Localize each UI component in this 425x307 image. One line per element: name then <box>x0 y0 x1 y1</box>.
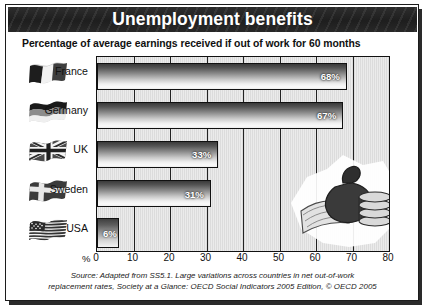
category-row-germany: Germany <box>14 95 96 134</box>
source-note-line2: replacement rates, Society at a Glance: … <box>16 281 409 292</box>
plot-area: 68% 67% 33% 31% 6% <box>96 56 390 252</box>
bar-sweden[interactable]: 31% <box>97 180 211 207</box>
category-row-uk: UK <box>14 134 96 173</box>
bar-uk[interactable]: 33% <box>97 141 218 168</box>
bar-value-label: 6% <box>103 227 117 238</box>
infographic-page: Unemployment benefits Percentage of aver… <box>0 0 425 307</box>
bar-value-label: 33% <box>192 149 211 160</box>
category-label: USA <box>66 222 88 234</box>
gridline-70 <box>353 57 354 251</box>
category-row-sweden: Sweden <box>14 174 96 213</box>
category-label: Germany <box>44 104 88 116</box>
category-label: UK <box>73 143 88 155</box>
category-label: France <box>55 65 88 77</box>
flag-usa-icon <box>28 217 69 244</box>
source-note-line1: Source: Adapted from SS5.1. Large variat… <box>16 270 409 281</box>
bar-value-label: 67% <box>317 110 336 121</box>
axis-tick-80: 80 <box>382 252 393 263</box>
axis-tick-20: 20 <box>163 252 174 263</box>
category-label: Sweden <box>50 183 88 195</box>
chart-subtitle: Percentage of average earnings received … <box>22 38 360 49</box>
axis-tick-0: 0 <box>93 252 99 263</box>
axis-tick-70: 70 <box>346 252 357 263</box>
axis-tick-60: 60 <box>309 252 320 263</box>
flag-uk-icon <box>28 138 69 165</box>
title-bar: Unemployment benefits <box>8 7 417 32</box>
chart-area: France Germany <box>14 56 411 252</box>
bar-germany[interactable]: 67% <box>97 102 343 129</box>
axis-tick-30: 30 <box>200 252 211 263</box>
category-row-france: France <box>14 56 96 95</box>
x-axis: % 0 10 20 30 40 50 60 70 80 <box>14 252 411 268</box>
category-label-column: France Germany <box>14 56 96 252</box>
bar-france[interactable]: 68% <box>97 63 347 90</box>
axis-tick-40: 40 <box>236 252 247 263</box>
axis-tick-50: 50 <box>273 252 284 263</box>
page-title: Unemployment benefits <box>8 7 417 32</box>
bar-value-label: 68% <box>321 71 340 82</box>
bar-usa[interactable]: 6% <box>97 218 119 248</box>
axis-tick-10: 10 <box>127 252 138 263</box>
bar-value-label: 31% <box>185 188 204 199</box>
category-row-usa: USA <box>14 213 96 252</box>
axis-unit-label: % <box>82 253 90 264</box>
source-note: Source: Adapted from SS5.1. Large variat… <box>16 270 409 292</box>
